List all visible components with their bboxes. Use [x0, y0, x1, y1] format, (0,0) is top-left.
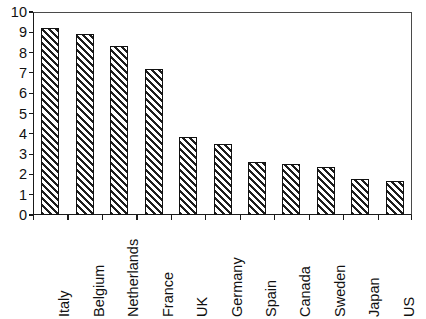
y-axis-tick-label: 2	[19, 165, 27, 183]
x-axis-tick-mark	[240, 215, 241, 220]
x-axis-tick-mark	[378, 215, 379, 220]
x-axis-label-text: US	[401, 297, 417, 317]
bar[interactable]	[41, 28, 59, 215]
x-axis-tick-mark	[274, 215, 275, 220]
x-axis-tick-mark	[102, 215, 103, 220]
bar[interactable]	[282, 164, 300, 215]
x-axis-tick-mark	[205, 215, 206, 220]
bar[interactable]	[76, 34, 94, 215]
y-axis-tick-label: 9	[19, 23, 27, 41]
x-axis-label-text: Belgium	[91, 265, 107, 317]
bar[interactable]	[179, 137, 197, 215]
bars-layer	[33, 12, 412, 215]
y-axis-tick-label: 8	[19, 44, 27, 62]
y-axis-tick-label: 1	[19, 186, 27, 204]
y-axis-tick-label: 6	[19, 84, 27, 102]
y-axis: 109876543210	[0, 12, 33, 215]
x-axis-tick-mark	[411, 215, 412, 220]
y-axis-tick-label: 3	[19, 145, 27, 163]
x-axis-label-text: Canada	[297, 266, 313, 317]
x-axis-label-text: Japan	[366, 277, 382, 317]
x-axis-label-text: Spain	[263, 280, 279, 317]
x-axis-tick-mark	[309, 215, 310, 220]
y-axis-tick-label: 4	[19, 125, 27, 143]
bar[interactable]	[110, 46, 128, 216]
y-axis-tick-label: 0	[19, 206, 27, 224]
x-axis-tick-mark	[67, 215, 68, 220]
x-axis-tick-mark	[171, 215, 172, 220]
x-axis-ticks	[33, 215, 412, 220]
bar-chart: 109876543210 ItalyBelgiumNetherlandsFran…	[0, 0, 426, 319]
x-axis-label-text: Italy	[56, 290, 72, 317]
x-axis-label-text: France	[160, 272, 176, 317]
x-axis-label-text: UK	[194, 297, 210, 317]
x-axis-label-text: Germany	[229, 257, 245, 317]
y-axis-tick-label: 5	[19, 105, 27, 123]
y-axis-tick-label: 10	[11, 3, 27, 21]
x-axis-label: US	[401, 221, 426, 317]
x-axis-tick-mark	[33, 215, 34, 220]
x-axis-labels: ItalyBelgiumNetherlandsFranceUKGermanySp…	[33, 221, 412, 317]
bar[interactable]	[145, 69, 163, 215]
x-axis-label-text: Sweden	[332, 265, 348, 317]
bar[interactable]	[317, 167, 335, 215]
y-axis-tick-label: 7	[19, 64, 27, 82]
bar[interactable]	[214, 144, 232, 215]
x-axis-label-text: Netherlands	[125, 239, 141, 317]
bar[interactable]	[386, 181, 404, 216]
bar[interactable]	[351, 179, 369, 215]
x-axis-tick-mark	[136, 215, 137, 220]
bar[interactable]	[248, 162, 266, 215]
x-axis-tick-mark	[343, 215, 344, 220]
